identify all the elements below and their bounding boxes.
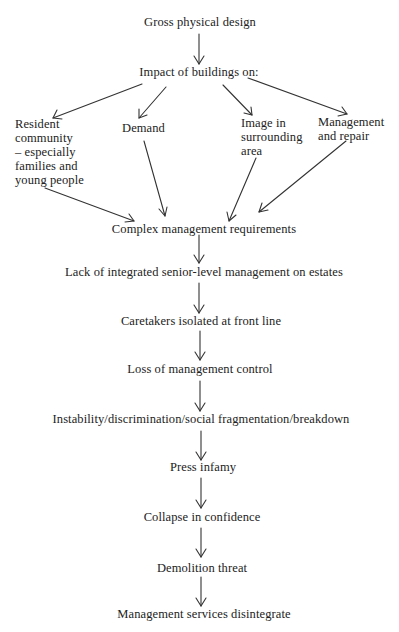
arrow-impact-to-demand [139, 87, 166, 118]
node-lack-of-senior-management: Lack of integrated senior-level manageme… [65, 265, 343, 279]
arrow-loss-to-instability [195, 381, 205, 411]
node-loss-of-control: Loss of management control [127, 362, 272, 376]
flowchart-diagram: Gross physical design Impact of building… [0, 0, 399, 632]
arrow-impact-to-management-repair [248, 78, 347, 116]
arrow-collapse-to-demolition [196, 528, 206, 557]
arrow-resident-to-complex [45, 188, 134, 222]
node-management-services-disintegrate: Management services disintegrate [117, 607, 290, 621]
node-gross-physical-design: Gross physical design [144, 15, 256, 29]
node-management-and-repair: Management and repair [318, 115, 384, 143]
arrow-image-to-complex [227, 158, 256, 221]
arrow-lack-to-caretakers [194, 283, 204, 313]
node-collapse-in-confidence: Collapse in confidence [144, 510, 261, 524]
arrow-instability-to-press [196, 431, 206, 460]
arrow-impact-to-resident [53, 84, 142, 119]
node-complex-management-requirements: Complex management requirements [112, 222, 296, 236]
arrow-complex-to-lack [194, 235, 204, 263]
arrow-impact-to-image [223, 85, 252, 115]
node-instability: Instability/discrimination/social fragme… [53, 412, 350, 426]
node-press-infamy: Press infamy [170, 460, 236, 474]
node-demolition-threat: Demolition threat [157, 561, 247, 575]
arrow-gross-to-impact [194, 34, 204, 64]
node-impact-of-buildings: Impact of buildings on: [139, 65, 258, 79]
node-demand: Demand [122, 121, 165, 135]
node-caretakers-isolated: Caretakers isolated at front line [121, 314, 281, 328]
arrow-demand-to-complex [144, 141, 167, 216]
node-resident-community: Resident community – especially families… [15, 117, 84, 187]
arrow-caretakers-to-loss [195, 331, 205, 360]
arrow-demolition-to-disintegrate [196, 577, 206, 606]
arrow-press-to-collapse [196, 478, 206, 508]
node-image-surrounding-area: Image in surrounding area [241, 116, 303, 158]
